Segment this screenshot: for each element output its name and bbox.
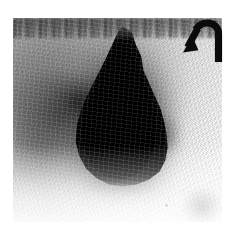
curved-arrow-down-left-icon	[180, 19, 226, 63]
inferior-right-blob	[181, 182, 222, 222]
image-speck	[165, 204, 168, 207]
figure-root	[0, 0, 238, 236]
